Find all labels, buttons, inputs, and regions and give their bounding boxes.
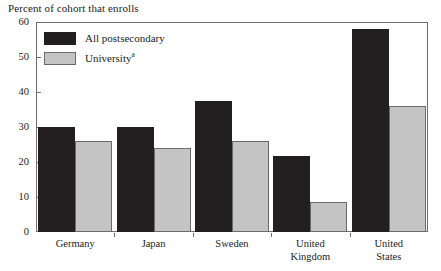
x-axis-tick-label: United States	[350, 238, 428, 263]
legend-label-university-footnote-marker: a	[131, 50, 134, 59]
legend-swatch-all-postsecondary	[44, 32, 76, 45]
bar-all-postsecondary-1	[117, 127, 154, 232]
x-axis-tick-mark	[350, 233, 351, 237]
bar-university-0	[75, 141, 112, 232]
bar-chart-figure: Percent of cohort that enrolls 010203040…	[0, 0, 441, 271]
x-axis-tick-mark	[114, 233, 115, 237]
bar-all-postsecondary-3	[273, 156, 310, 232]
bar-all-postsecondary-0	[38, 127, 75, 232]
bar-all-postsecondary-2	[195, 101, 232, 232]
x-axis: GermanyJapanSwedenUnited KingdomUnited S…	[36, 233, 428, 271]
legend-swatch-university	[44, 52, 76, 65]
x-axis-tick-mark	[271, 233, 272, 237]
legend-label-all-postsecondary: All postsecondary	[85, 32, 165, 44]
x-axis-tick-label: Japan	[114, 238, 192, 251]
bar-university-1	[154, 148, 191, 232]
bar-university-4	[389, 106, 426, 232]
x-axis-tick-label: Germany	[36, 238, 114, 251]
legend-label-university: Universitya	[85, 52, 135, 64]
x-axis-tick-mark	[193, 233, 194, 237]
bar-university-2	[232, 141, 269, 232]
legend-label-university-text: University	[85, 52, 131, 64]
chart-legend: All postsecondary Universitya	[44, 28, 165, 68]
x-axis-tick-label: Sweden	[193, 238, 271, 251]
x-axis-tick-label: United Kingdom	[271, 238, 349, 263]
legend-item-all-postsecondary: All postsecondary	[44, 28, 165, 48]
bar-university-3	[310, 202, 347, 232]
bar-all-postsecondary-4	[352, 29, 389, 232]
legend-item-university: Universitya	[44, 48, 165, 68]
